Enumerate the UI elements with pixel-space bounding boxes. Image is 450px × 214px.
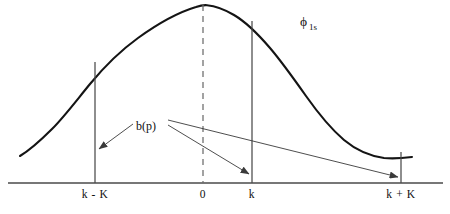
- wavefunction-curve: [20, 5, 412, 158]
- annotation-label-bp: b(p): [136, 119, 156, 133]
- tick-label-zero: 0: [200, 188, 206, 200]
- figure-container: b(p) ϕ 1s k - K 0 k k + K: [0, 0, 450, 214]
- tick-label-k-minus-K: k - K: [82, 188, 109, 200]
- curve-label-phi: ϕ: [300, 14, 307, 29]
- leader-arrow-left: [99, 124, 133, 149]
- wavefunction-diagram: b(p) ϕ 1s k - K 0 k k + K: [0, 0, 450, 214]
- tick-label-k: k: [249, 188, 255, 200]
- curve-label-phi-subscript: 1s: [309, 22, 318, 32]
- leader-arrow-middle: [168, 125, 249, 174]
- tick-label-k-plus-K: k + K: [386, 188, 415, 200]
